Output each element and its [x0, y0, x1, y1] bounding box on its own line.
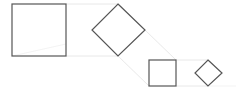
guide-inner-diagonal [12, 44, 66, 56]
guide-diamond-to-small-top [145, 30, 176, 60]
large-square [12, 4, 66, 56]
small-square [149, 60, 176, 86]
transformation-diagram [0, 0, 238, 93]
guide-diamond-to-small-bottom [118, 56, 149, 86]
guide-lines [12, 4, 236, 86]
large-diamond [92, 4, 145, 56]
small-diamond [195, 60, 222, 86]
